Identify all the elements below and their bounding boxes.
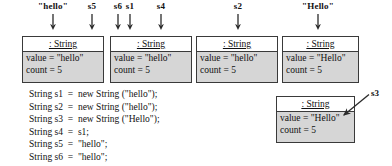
reference-label-5: s2 <box>234 1 242 11</box>
string-object-3: : Stringvalue = "hello"count = 5 <box>196 36 278 83</box>
arrow-to-box2-s4 <box>158 14 165 30</box>
s3-callout-arrow <box>338 93 372 119</box>
code-line-1: String s1 = new String ("hello"); <box>29 88 160 101</box>
string-object-4-count-attr: count = 5 <box>286 65 358 77</box>
string-object-3-header: : String <box>197 37 277 52</box>
string-object-1-value-attr: value = "hello" <box>26 53 103 65</box>
string-object-1-attributes: value = "hello"count = 5 <box>23 52 103 76</box>
java-code-listing: String s1 = new String ("hello");String … <box>29 88 160 164</box>
code-line-2: String s2 = new String ("hello"); <box>29 101 160 114</box>
string-object-2-type-name: : String <box>137 39 165 49</box>
code-line-5: String s5 = "hello"; <box>29 138 160 151</box>
string-object-2-attributes: value = "hello"count = 5 <box>111 52 191 76</box>
string-object-1-header: : String <box>23 37 103 52</box>
string-object-4: : Stringvalue = "Hello"count = 5 <box>282 36 359 83</box>
s3-callout-label: s3 <box>371 88 379 98</box>
string-object-2-count-attr: count = 5 <box>114 65 191 77</box>
reference-label-3: s1 <box>126 1 134 11</box>
reference-label-4: s4 <box>157 1 165 11</box>
arrow-to-box1-hello <box>50 14 57 30</box>
arrow-to-box2-s1 <box>127 14 134 30</box>
reference-label-2: s6 <box>114 1 122 11</box>
string-object-4-attributes: value = "Hello"count = 5 <box>283 52 358 76</box>
string-object-3-type-name: : String <box>223 39 251 49</box>
code-line-6: String s6 = "hello"; <box>29 151 160 164</box>
string-object-2: : Stringvalue = "hello"count = 5 <box>110 36 192 83</box>
string-object-4-value-attr: value = "Hello" <box>286 53 358 65</box>
string-object-3-value-attr: value = "hello" <box>200 53 277 65</box>
code-line-4: String s4 = s1; <box>29 126 160 139</box>
string-object-1-count-attr: count = 5 <box>26 65 103 77</box>
string-object-3-attributes: value = "hello"count = 5 <box>197 52 277 76</box>
arrow-to-box3-s2 <box>235 14 242 30</box>
string-object-2-header: : String <box>111 37 191 52</box>
string-object-s3-type-name: : String <box>301 99 329 109</box>
arrow-to-box1-s6 <box>115 14 122 30</box>
reference-label-1: s5 <box>88 1 96 11</box>
string-object-4-header: : String <box>283 37 358 52</box>
arrow-to-box1-s5 <box>89 14 96 30</box>
object-diagram-canvas: "hello"s5s6s1s4s2"Hello" : Stringvalue =… <box>0 0 392 166</box>
code-line-3: String s3 = new String ("Hello"); <box>29 113 160 126</box>
string-object-1-type-name: : String <box>49 39 77 49</box>
string-object-3-count-attr: count = 5 <box>200 65 277 77</box>
string-object-s3-count-attr: count = 5 <box>280 125 354 137</box>
string-object-2-value-attr: value = "hello" <box>114 53 191 65</box>
string-object-4-type-name: : String <box>306 39 334 49</box>
reference-label-0: "hello" <box>38 1 68 11</box>
reference-label-6: "Hello" <box>302 1 334 11</box>
arrow-to-box4-hello <box>315 14 322 30</box>
string-object-1: : Stringvalue = "hello"count = 5 <box>22 36 104 83</box>
